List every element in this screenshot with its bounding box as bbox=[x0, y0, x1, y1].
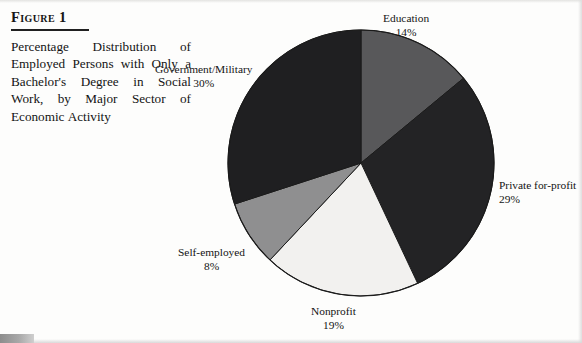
slice-label-government-military-value: 30% bbox=[155, 76, 252, 90]
pie-slice-group bbox=[228, 30, 494, 296]
slice-label-government-military: Government/Military 30% bbox=[155, 62, 252, 90]
slice-label-nonprofit: Nonprofit 19% bbox=[311, 304, 356, 332]
slice-label-education-value: 14% bbox=[383, 25, 429, 39]
slice-label-government-military-name: Government/Military bbox=[155, 62, 252, 76]
pie-chart-svg bbox=[0, 0, 582, 343]
slice-label-nonprofit-value: 19% bbox=[311, 318, 356, 332]
slice-label-private-for-profit: Private for-profit 29% bbox=[499, 178, 576, 206]
slice-label-education-name: Education bbox=[383, 11, 429, 25]
slice-label-private-for-profit-value: 29% bbox=[499, 192, 576, 206]
slice-label-self-employed-name: Self-employed bbox=[178, 245, 245, 259]
slice-label-self-employed-value: 8% bbox=[178, 259, 245, 273]
slice-label-nonprofit-name: Nonprofit bbox=[311, 304, 356, 318]
figure-page: Figure 1 Percentage Distribution of Empl… bbox=[0, 0, 582, 343]
slice-label-education: Education 14% bbox=[383, 11, 429, 39]
slice-label-private-for-profit-name: Private for-profit bbox=[499, 178, 576, 192]
slice-label-self-employed: Self-employed 8% bbox=[178, 245, 245, 273]
pie-chart: Education 14% Private for-profit 29% Non… bbox=[0, 0, 582, 343]
